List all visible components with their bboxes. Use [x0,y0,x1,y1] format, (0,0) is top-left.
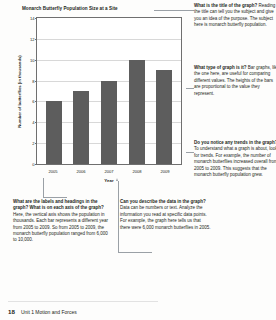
page-number: 18 [8,308,15,315]
plot-area: 02468101214 [36,17,182,165]
x-axis-tick-label: 2006 [67,169,95,174]
bar-chart: Monarch Butterfly Population Size at a S… [8,6,184,188]
callout-question: Can you describe the data in the graph? [120,199,206,204]
callout-labels-axes: What are the labels and headings in the … [13,199,109,244]
callout-describe-data: Can you describe the data in the graph? … [120,199,212,231]
running-head: Unit 1 Motion and Forces [21,309,77,315]
x-axis-tick-label: 2008 [123,169,151,174]
page-footer: 18 Unit 1 Motion and Forces [8,308,77,315]
bar [156,70,172,164]
x-axis-tick-label: 2005 [39,169,67,174]
callout-question: Do you notice any trends in the graph? [194,140,276,145]
bar [46,101,62,164]
callout-answer: To understand what a graph is about, loo… [194,146,276,177]
y-axis-title-text: Number of butterflies (in thousands) [17,55,22,127]
callout-chart-type: What type of graph is it? Bar graphs, li… [194,65,276,97]
footer-rule [8,301,158,302]
bar [129,60,145,164]
bar-column [123,18,151,164]
leader-line-data-v [118,181,119,253]
bar-column [95,18,123,164]
callout-answer: Data can be numbers or text. Analyze the… [120,205,211,229]
leader-arrow-data [116,178,118,181]
bar [101,81,117,164]
y-axis-tick-label: 10 [30,57,35,62]
y-axis-tick-mark [35,164,37,165]
callout-question: What type of graph is it? [194,65,247,70]
chart-title: Monarch Butterfly Population Size at a S… [22,6,118,11]
leader-line-trend [186,152,194,153]
y-axis-title: Number of butterflies (in thousands) [15,17,24,165]
callout-question: What is the title of the graph? [194,3,257,8]
callout-chart-title: What is the title of the graph? Reading … [194,3,276,29]
bar-column [150,18,178,164]
callout-answer: Here, the vertical axis shows the popula… [13,212,108,243]
leader-line-axis-v [43,178,44,198]
callout-trends: Do you notice any trends in the graph? T… [194,140,276,178]
bar-series [37,18,181,164]
leader-line-title [154,10,194,11]
leader-line-type [186,88,194,89]
textbook-page: Monarch Butterfly Population Size at a S… [0,0,276,320]
x-axis-tick-label: 2009 [151,169,179,174]
bar-column [40,18,68,164]
y-axis-tick-label: 12 [30,36,35,41]
x-axis-title: Year [36,178,182,183]
y-axis-tick-label: 14 [30,16,35,21]
bar [73,91,89,164]
x-axis-tick-labels: 20052006200720082009 [36,169,182,174]
leader-line-data-h [118,252,152,253]
leader-line-axis-h [43,197,67,198]
x-axis-tick-label: 2007 [95,169,123,174]
callout-question: What are the labels and headings in the … [13,199,104,210]
bar-column [68,18,96,164]
